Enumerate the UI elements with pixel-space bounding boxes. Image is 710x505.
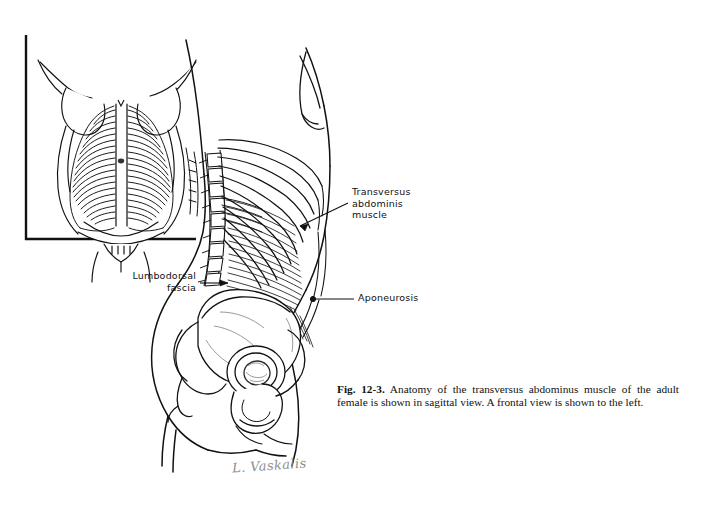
pelvis (168, 290, 305, 434)
inset-adjacent-figure-edge (186, 148, 198, 216)
anatomical-illustration (0, 0, 710, 505)
label-aponeurosis: Aponeurosis (358, 292, 418, 304)
leader-transversus (300, 203, 348, 231)
inset-sternum (118, 100, 124, 106)
figure-caption: Fig. 12-3. Anatomy of the transversus ab… (337, 383, 679, 409)
inset-torso-outline (38, 60, 196, 282)
figure-page: Transversus abdominis muscle Lumbodorsal… (0, 0, 710, 505)
label-lumbodorsal-fascia: Lumbodorsal fascia (92, 270, 196, 293)
leader-aponeurosis (310, 296, 354, 301)
vertebral-column (198, 150, 225, 286)
label-transversus-abdominis-muscle: Transversus abdominis muscle (352, 186, 411, 221)
frontal-view-inset (25, 35, 198, 282)
inset-umbilicus (118, 159, 124, 164)
figure-number: Fig. 12-3. (337, 383, 385, 395)
rib-cage (218, 140, 324, 288)
figure-caption-text: Anatomy of the transversus abdominus mus… (337, 383, 679, 408)
